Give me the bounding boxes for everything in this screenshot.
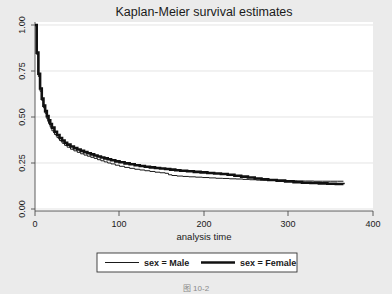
x-tick-label-300: 300 bbox=[280, 219, 295, 229]
x-tick-label-200: 200 bbox=[196, 219, 211, 229]
legend-label-male[interactable]: sex = Male bbox=[144, 258, 189, 268]
x-axis-title: analysis time bbox=[177, 231, 232, 242]
legend: sex = Male sex = Female bbox=[97, 253, 297, 272]
chart-title: Kaplan-Meier survival estimates bbox=[115, 5, 292, 19]
y-tick-label-0.25: 0.25 bbox=[17, 154, 27, 172]
x-tick-label-400: 400 bbox=[365, 219, 380, 229]
x-tick-label-100: 100 bbox=[111, 219, 126, 229]
y-tick-label-0.50: 0.50 bbox=[17, 108, 27, 126]
y-tick-label-1.00: 1.00 bbox=[17, 16, 27, 34]
y-tick-label-0.00: 0.00 bbox=[17, 200, 27, 218]
figure-caption: 图 10-2 bbox=[183, 284, 210, 293]
y-tick-label-0.75: 0.75 bbox=[17, 62, 27, 80]
kaplan-meier-chart: Kaplan-Meier survival estimates 1.00 0.7… bbox=[0, 0, 392, 294]
x-tick-label-0: 0 bbox=[32, 219, 37, 229]
legend-label-female[interactable]: sex = Female bbox=[240, 258, 296, 268]
figure-container: Kaplan-Meier survival estimates 1.00 0.7… bbox=[0, 0, 392, 294]
y-axis: 1.00 0.75 0.50 0.25 0.00 bbox=[17, 16, 35, 218]
x-axis: 0 100 200 300 400 analysis time bbox=[32, 211, 380, 242]
